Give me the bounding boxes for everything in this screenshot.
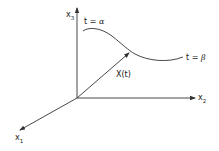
- parametric-curve: [83, 28, 183, 60]
- diagram-canvas: x3 x2 x1 t = α t = β X(t): [0, 0, 219, 151]
- vector-label: X(t): [116, 70, 131, 79]
- curve-end-label: t = β: [186, 53, 206, 62]
- curve-start-label: t = α: [84, 17, 105, 26]
- x1-axis-label: x1: [15, 133, 23, 144]
- x3-axis-label: x3: [66, 10, 75, 21]
- x2-axis-label: x2: [198, 93, 206, 104]
- x1-axis: [20, 98, 77, 130]
